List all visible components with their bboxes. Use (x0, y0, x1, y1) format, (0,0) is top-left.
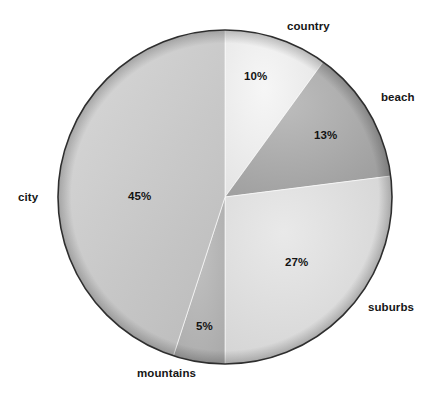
pie-chart: country beach suburbs mountains city 10%… (0, 0, 439, 401)
slice-value-suburbs: 27% (285, 256, 308, 268)
slice-label-city: city (18, 191, 38, 203)
slice-value-mountains: 5% (196, 320, 213, 332)
slice-label-mountains: mountains (137, 367, 196, 379)
slice-value-beach: 13% (314, 129, 337, 141)
slice-value-country: 10% (244, 70, 267, 82)
slice-label-suburbs: suburbs (368, 301, 414, 313)
pie-rim-shading (58, 30, 392, 364)
slice-label-beach: beach (381, 91, 415, 103)
slice-value-city: 45% (128, 190, 151, 202)
slice-label-country: country (287, 20, 330, 32)
pie-svg (0, 0, 439, 401)
